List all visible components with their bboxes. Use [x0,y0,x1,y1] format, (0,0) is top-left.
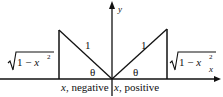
right-side-exponent: 2 [209,53,213,61]
right-side-radicand: 1 − x [179,56,201,68]
left-base-caption: x, negative [60,81,109,93]
right-base-caption: x, positive [113,81,159,93]
left-hypotenuse-label: 1 [85,39,91,51]
right-triangle-hypotenuse [112,29,167,79]
unit-circle-triangles-diagram: x y 1 θ 1 − x 2 x, negative 1 θ 1 − x 2 … [0,0,223,97]
right-hypotenuse-label: 1 [141,39,147,51]
left-triangle-hypotenuse [59,30,112,79]
y-axis-label: y [117,4,122,14]
y-axis-arrow-icon [109,1,115,9]
right-triangle: 1 θ 1 − x 2 x, positive [112,29,216,93]
left-side-exponent: 2 [47,53,51,61]
right-angle-label: θ [133,66,138,78]
x-axis-arrow-icon [214,76,221,82]
x-axis-label: x [208,64,213,74]
left-side-length-label: 1 − x 2 [8,52,54,70]
left-angle-label: θ [90,66,95,78]
left-side-radicand: 1 − x [17,56,39,68]
left-triangle: 1 θ 1 − x 2 x, negative [8,30,112,93]
